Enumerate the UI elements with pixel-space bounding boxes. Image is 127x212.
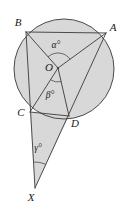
center-point-dot — [57, 67, 59, 69]
vertex-label-b: B — [15, 16, 22, 28]
vertex-label-d: D — [70, 117, 79, 129]
angle-label-gamma: γ° — [34, 143, 42, 153]
geometry-canvas: B A O C D X α° β° γ° — [0, 0, 127, 212]
angle-label-beta: β° — [45, 90, 55, 100]
vertex-label-x: X — [27, 191, 36, 203]
geometry-figure: B A O C D X α° β° γ° — [0, 0, 127, 212]
vertex-label-o: O — [45, 61, 53, 73]
circle-disc — [14, 19, 114, 119]
angle-label-alpha: α° — [52, 40, 61, 50]
vertex-label-c: C — [17, 106, 25, 118]
vertex-label-a: A — [109, 21, 117, 33]
